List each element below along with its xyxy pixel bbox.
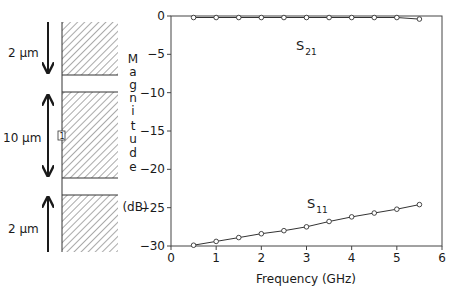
s11-label-main: S (307, 196, 315, 211)
plot-area: 0−5−10−15−20−25−30 0123456 S21 S11 Frequ… (140, 9, 446, 286)
y-tick-label: −10 (140, 86, 165, 100)
thickness-label-middle: 10 μm (3, 131, 41, 145)
layer-diagram: 2 μm 10 μm 2 μm 1 (3, 22, 118, 252)
y-tick-label: −5 (147, 47, 165, 61)
marker-label: 1 (60, 132, 65, 141)
layer-middle (62, 92, 118, 178)
data-point-marker (349, 15, 354, 20)
s11-label-sub: 11 (316, 205, 327, 215)
data-point-marker (372, 15, 377, 20)
thickness-label-top: 2 μm (8, 46, 39, 60)
data-point-marker (259, 231, 264, 236)
y-axis-letter: n (129, 91, 137, 105)
s21-label-main: S (296, 38, 304, 53)
y-axis-letter: M (128, 52, 138, 66)
data-point-marker (259, 15, 264, 20)
s21-label-sub: 21 (305, 47, 316, 57)
figure: 2 μm 10 μm 2 μm 1 M a g n i t u d e (dB)… (0, 0, 457, 297)
data-point-marker (236, 15, 241, 20)
x-tick-label: 5 (393, 251, 401, 265)
data-point-marker (327, 15, 332, 20)
x-tick-label: 4 (348, 251, 356, 265)
data-point-marker (304, 225, 309, 230)
y-ticks: 0−5−10−15−20−25−30 (140, 9, 171, 253)
data-point-marker (372, 211, 377, 216)
layer-bottom (62, 195, 118, 252)
data-point-marker (349, 215, 354, 220)
x-tick-label: 0 (167, 251, 175, 265)
data-point-marker (191, 243, 196, 248)
y-tick-label: −25 (140, 201, 165, 215)
data-point-marker (395, 15, 400, 20)
y-axis-letter: t (131, 119, 136, 133)
data-point-marker (327, 219, 332, 224)
data-point-marker (191, 15, 196, 20)
y-axis-letter: d (129, 146, 137, 160)
y-axis-letter: a (129, 65, 136, 79)
x-tick-label: 1 (212, 251, 220, 265)
x-tick-label: 2 (258, 251, 266, 265)
thickness-label-bottom: 2 μm (8, 222, 39, 236)
s11-label: S11 (307, 196, 328, 215)
data-point-marker (236, 235, 241, 240)
y-tick-label: −30 (140, 239, 165, 253)
x-tick-label: 6 (438, 251, 446, 265)
data-point-marker (282, 15, 287, 20)
data-point-marker (417, 202, 422, 207)
y-tick-label: −15 (140, 124, 165, 138)
layer-top (62, 22, 118, 75)
data-point-marker (304, 15, 309, 20)
data-point-marker (282, 228, 287, 233)
x-tick-label: 3 (303, 251, 311, 265)
y-axis-letter: i (131, 104, 134, 118)
s21-label: S21 (296, 38, 317, 57)
x-axis-title: Frequency (GHz) (256, 272, 356, 286)
data-point-marker (214, 239, 219, 244)
y-tick-label: −20 (140, 162, 165, 176)
x-ticks: 0123456 (167, 246, 446, 265)
data-point-marker (417, 17, 422, 22)
y-axis-letter: g (129, 78, 137, 92)
data-point-marker (214, 15, 219, 20)
data-point-marker (395, 207, 400, 212)
y-axis-letter: e (129, 160, 136, 174)
y-axis-letter: u (129, 132, 137, 146)
y-tick-label: 0 (157, 9, 165, 23)
